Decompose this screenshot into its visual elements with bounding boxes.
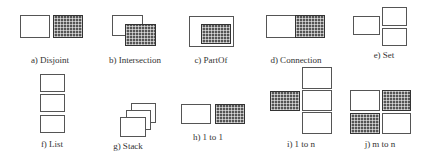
panel-label: j) m to n xyxy=(365,139,396,149)
hatched-rect xyxy=(350,113,380,134)
panel-label: i) 1 to n xyxy=(287,139,315,149)
plain-rect xyxy=(20,15,50,38)
plain-rect xyxy=(382,113,411,134)
hatched-rect xyxy=(53,15,83,38)
panel-label: a) Disjoint xyxy=(31,55,69,65)
hatched-rect xyxy=(295,15,325,38)
panel-label: h) 1 to 1 xyxy=(193,132,223,142)
hatched-rect xyxy=(125,24,156,46)
hatched-rect xyxy=(270,91,300,111)
panel-label: e) Set xyxy=(374,50,395,60)
panel-label: f) List xyxy=(41,139,63,149)
plain-rect xyxy=(40,74,65,92)
hatched-rect xyxy=(215,104,245,124)
panel-label: d) Connection xyxy=(270,55,321,65)
plain-rect xyxy=(302,112,332,134)
panel-label: c) PartOf xyxy=(194,55,227,65)
plain-rect xyxy=(382,28,407,46)
panel-label: b) Intersection xyxy=(109,55,161,65)
plain-rect xyxy=(181,104,211,124)
hatched-rect xyxy=(382,90,411,111)
plain-rect xyxy=(353,16,380,35)
plain-rect xyxy=(120,117,146,137)
plain-rect xyxy=(302,67,332,89)
plain-rect xyxy=(302,90,332,111)
plain-rect xyxy=(40,94,65,112)
plain-rect xyxy=(350,90,380,111)
plain-rect xyxy=(40,115,65,133)
plain-rect xyxy=(382,7,407,26)
panel-label: g) Stack xyxy=(113,141,143,151)
plain-rect xyxy=(266,15,296,38)
inner-hatched-rect xyxy=(201,24,231,44)
